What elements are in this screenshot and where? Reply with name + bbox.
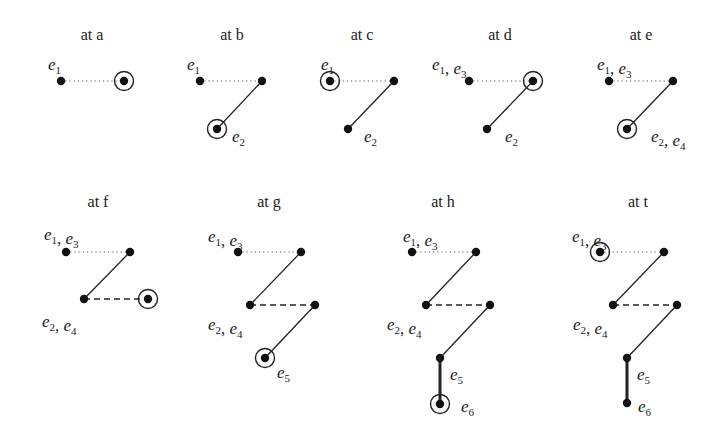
node-dot <box>673 301 681 309</box>
edge-solid <box>84 252 130 299</box>
node-dot <box>261 354 269 362</box>
node-dot <box>436 400 444 408</box>
panel-title: at c <box>351 26 374 43</box>
node-dot <box>297 248 305 256</box>
edge-label: e2 <box>364 127 377 148</box>
panel-title: at h <box>431 193 455 210</box>
edge-label: e2 <box>232 127 245 148</box>
panel-title: at f <box>88 193 110 210</box>
node-dot <box>126 248 134 256</box>
node-dot <box>623 399 631 407</box>
node-dot <box>472 248 480 256</box>
edge-label: e1, e3 <box>597 55 632 80</box>
panel-h: at he1, e3e2, e4e5e6 <box>387 193 494 418</box>
node-dot <box>669 77 677 85</box>
node-dot <box>609 301 617 309</box>
panel-title: at b <box>220 26 244 43</box>
panel-t: at te1, e3e2, e4e5e6 <box>572 193 681 418</box>
edge-label: e1, e3 <box>432 55 467 80</box>
node-dot <box>408 248 416 256</box>
edge-label: e2 <box>505 127 518 148</box>
panel-title: at g <box>257 193 281 211</box>
edge-label: e2, e4 <box>208 315 243 340</box>
node-dot <box>486 301 494 309</box>
node-dot <box>144 295 152 303</box>
panel-d: at de1, e3e2 <box>432 26 543 148</box>
edge-label: e1 <box>48 55 61 76</box>
panel-e: at ee1, e3e2, e4 <box>597 26 686 152</box>
node-dot <box>623 354 631 362</box>
panel-title: at t <box>628 193 649 210</box>
edge-label: e2, e4 <box>651 127 686 152</box>
edge-solid <box>613 252 664 305</box>
edge-solid <box>348 81 394 129</box>
edge-label: e2, e4 <box>42 312 77 337</box>
node-dot <box>196 77 204 85</box>
edge-label: e1 <box>187 55 200 76</box>
edge-solid <box>250 252 301 305</box>
edge-solid <box>627 305 677 358</box>
panel-f: at fe1, e3e2, e4 <box>42 193 158 337</box>
node-dot <box>311 301 319 309</box>
node-dot <box>660 248 668 256</box>
panel-b: at be1e2 <box>187 26 266 148</box>
edge-solid <box>265 305 315 358</box>
node-dot <box>213 125 221 133</box>
panel-title: at a <box>81 26 104 43</box>
panel-title: at e <box>630 26 653 43</box>
edge-label: e6 <box>461 397 475 418</box>
edge-label: e1, e3 <box>572 227 607 252</box>
edge-label: e2, e4 <box>387 315 422 340</box>
edge-solid <box>440 305 490 358</box>
node-dot <box>80 295 88 303</box>
node-dot <box>623 125 631 133</box>
edge-label: e5 <box>277 363 291 384</box>
edge-label: e2, e4 <box>573 315 608 340</box>
node-dot <box>62 248 70 256</box>
edge-solid <box>426 252 476 305</box>
node-dot <box>390 77 398 85</box>
node-dot <box>436 354 444 362</box>
node-dot <box>605 77 613 85</box>
node-dot <box>57 77 65 85</box>
panel-c: at ce1e2 <box>321 26 399 148</box>
edge-label: e1, e3 <box>208 227 243 252</box>
node-dot <box>529 77 537 85</box>
panel-g: at ge1, e3e2, e4e5 <box>208 193 319 384</box>
node-dot <box>258 77 266 85</box>
edge-label: e1, e3 <box>44 225 79 250</box>
panel-a: at ae1 <box>48 26 134 91</box>
panel-title: at d <box>488 26 512 43</box>
node-dot <box>483 125 491 133</box>
edge-label: e1 <box>321 55 334 76</box>
edge-label: e1, e3 <box>403 227 438 252</box>
edge-label: e5 <box>637 365 651 386</box>
node-dot <box>422 301 430 309</box>
node-dot <box>326 77 334 85</box>
node-dot <box>120 77 128 85</box>
node-dot <box>344 125 352 133</box>
edge-label: e6 <box>638 397 652 418</box>
traversal-diagram: at ae1at be1e2at ce1e2at de1, e3e2at ee1… <box>0 0 728 434</box>
node-dot <box>246 301 254 309</box>
edge-label: e5 <box>450 365 464 386</box>
